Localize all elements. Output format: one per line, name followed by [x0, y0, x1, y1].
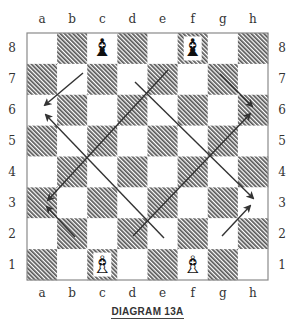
square-e2 — [148, 218, 178, 249]
square-d8 — [117, 33, 147, 64]
square-f2 — [178, 218, 208, 249]
square-c4 — [87, 157, 117, 188]
board-squares — [27, 33, 268, 280]
white-bishop-icon: ♗ — [182, 251, 204, 279]
square-d3 — [117, 187, 147, 218]
white-bishop-icon: ♗ — [92, 251, 114, 279]
square-c2 — [87, 218, 117, 249]
chess-board: ♝♝♗♗ — [0, 0, 295, 327]
square-d6 — [117, 95, 147, 126]
square-h2 — [238, 218, 268, 249]
square-e5 — [148, 126, 178, 157]
square-f6 — [178, 95, 208, 126]
square-e7 — [148, 64, 178, 95]
square-d4 — [117, 157, 147, 188]
square-d2 — [117, 218, 147, 249]
square-f5 — [178, 126, 208, 157]
square-g7 — [208, 64, 238, 95]
square-h5 — [238, 126, 268, 157]
square-a1 — [27, 249, 57, 280]
square-e3 — [148, 187, 178, 218]
square-h8 — [238, 33, 268, 64]
square-g6 — [208, 95, 238, 126]
square-a5 — [27, 126, 57, 157]
square-b3 — [57, 187, 87, 218]
square-g4 — [208, 157, 238, 188]
square-g8 — [208, 33, 238, 64]
square-h7 — [238, 64, 268, 95]
square-c7 — [87, 64, 117, 95]
square-f4 — [178, 157, 208, 188]
diagram-caption: DIAGRAM 13A — [0, 306, 295, 317]
square-b8 — [57, 33, 87, 64]
square-a2 — [27, 218, 57, 249]
square-a8 — [27, 33, 57, 64]
black-bishop-icon: ♝ — [182, 34, 204, 62]
square-b6 — [57, 95, 87, 126]
black-bishop-icon: ♝ — [92, 34, 114, 62]
square-c3 — [87, 187, 117, 218]
square-d1 — [117, 249, 147, 280]
square-h1 — [238, 249, 268, 280]
square-d5 — [117, 126, 147, 157]
square-a4 — [27, 157, 57, 188]
square-e1 — [148, 249, 178, 280]
square-b1 — [57, 249, 87, 280]
square-h4 — [238, 157, 268, 188]
square-e8 — [148, 33, 178, 64]
square-f3 — [178, 187, 208, 218]
square-c6 — [87, 95, 117, 126]
caption-text: DIAGRAM 13A — [111, 306, 183, 319]
square-g1 — [208, 249, 238, 280]
square-a7 — [27, 64, 57, 95]
square-g3 — [208, 187, 238, 218]
square-e4 — [148, 157, 178, 188]
square-f7 — [178, 64, 208, 95]
square-b5 — [57, 126, 87, 157]
